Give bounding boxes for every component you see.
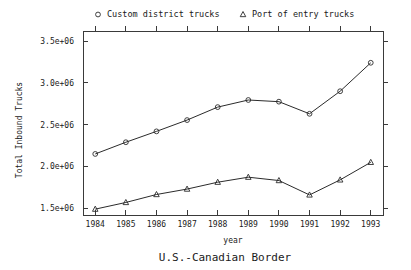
x-tick-label: 1992 bbox=[331, 220, 350, 229]
x-tick-label: 1986 bbox=[147, 220, 166, 229]
y-tick-label: 1.5e+06 bbox=[40, 204, 74, 213]
y-tick-label: 3.0e+06 bbox=[40, 79, 74, 88]
legend-marker-triangle bbox=[240, 12, 246, 17]
x-tick-label: 1991 bbox=[300, 220, 319, 229]
data-point-marker bbox=[368, 159, 374, 164]
x-tick-label: 1987 bbox=[177, 220, 196, 229]
series-polyline bbox=[95, 162, 371, 209]
line-chart: Custom district trucksPort of entry truc… bbox=[0, 0, 411, 270]
y-tick-label: 2.0e+06 bbox=[40, 162, 74, 171]
plot-frame bbox=[83, 31, 383, 215]
x-axis-label: year bbox=[223, 236, 242, 245]
legend-label: Port of entry trucks bbox=[252, 9, 354, 19]
chart-legend: Custom district trucksPort of entry truc… bbox=[96, 9, 355, 19]
legend-marker-circle bbox=[96, 12, 101, 17]
series-triangle bbox=[92, 159, 373, 211]
y-axis-ticks: 1.5e+062.0e+062.5e+063.0e+063.5e+06 bbox=[40, 37, 388, 213]
y-axis-label: Total Inbound Trucks bbox=[15, 82, 24, 179]
series-circle bbox=[93, 60, 373, 156]
chart-title: U.S.-Canadian Border bbox=[159, 251, 292, 264]
chart-container: Custom district trucksPort of entry truc… bbox=[0, 0, 411, 270]
x-tick-label: 1990 bbox=[269, 220, 288, 229]
data-series-group bbox=[92, 60, 373, 211]
plot-border bbox=[83, 31, 383, 215]
y-tick-label: 3.5e+06 bbox=[40, 37, 74, 46]
series-polyline bbox=[95, 63, 371, 154]
data-point-marker bbox=[368, 60, 373, 65]
x-tick-label: 1989 bbox=[239, 220, 258, 229]
x-tick-label: 1993 bbox=[361, 220, 380, 229]
data-point-marker bbox=[93, 152, 98, 157]
x-axis-ticks: 1984198519861987198819891990199119921993 bbox=[86, 26, 381, 229]
x-tick-label: 1984 bbox=[86, 220, 105, 229]
x-tick-label: 1988 bbox=[208, 220, 227, 229]
x-tick-label: 1985 bbox=[116, 220, 135, 229]
y-tick-label: 2.5e+06 bbox=[40, 121, 74, 130]
legend-label: Custom district trucks bbox=[107, 9, 220, 19]
